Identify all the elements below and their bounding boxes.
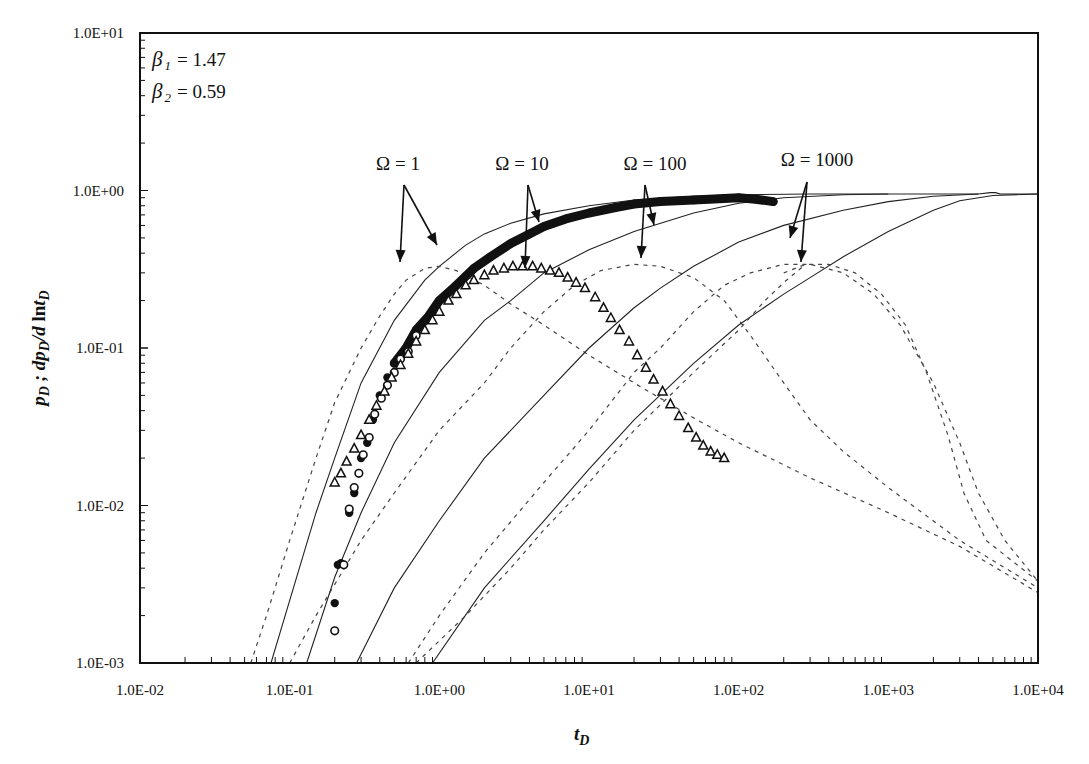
y-tick-label: 1.0E-03	[76, 655, 124, 671]
x-tick-label: 1.0E+03	[863, 682, 914, 698]
triangle-marker	[591, 292, 600, 301]
omega-label: Ω = 100	[624, 153, 687, 174]
filled-circle-marker	[656, 197, 664, 205]
x-tick-label: 1.0E+02	[713, 682, 764, 698]
arrowhead-icon	[396, 250, 406, 262]
triangle-marker	[606, 313, 615, 322]
triangle-marker	[499, 263, 508, 272]
filled-circle-marker	[689, 196, 697, 204]
series-line-5	[408, 264, 1038, 663]
triangle-marker	[480, 270, 489, 279]
filled-circle-marker	[435, 296, 443, 304]
triangle-marker	[684, 423, 693, 432]
chart: 1.0E-021.0E-011.0E+001.0E+011.0E+021.0E+…	[0, 0, 1089, 764]
series-line-3	[290, 264, 1038, 663]
filled-circle-marker	[769, 197, 777, 205]
omega-label: Ω = 1	[376, 153, 420, 174]
filled-circle-marker	[585, 209, 593, 217]
triangle-marker	[692, 433, 701, 442]
triangle-marker	[649, 375, 658, 384]
y-tick-label: 1.0E-01	[76, 340, 124, 356]
triangle-marker	[350, 444, 359, 453]
triangle-marker	[615, 325, 624, 334]
triangle-marker	[528, 261, 537, 270]
open-circle-marker	[350, 484, 358, 492]
axis-ticks	[140, 33, 1031, 663]
triangle-marker	[633, 350, 642, 359]
open-circle-marker	[345, 505, 353, 513]
filled-circle-marker	[611, 203, 619, 211]
series-line-0	[271, 193, 1038, 663]
arrowhead-icon	[637, 246, 647, 258]
triangle-marker	[675, 411, 684, 420]
filled-circle-marker	[507, 239, 515, 247]
open-circle-marker	[365, 434, 373, 442]
arrowhead-icon	[531, 209, 541, 222]
omega-label: Ω = 1000	[781, 149, 853, 170]
filled-circle-marker	[486, 252, 494, 260]
beta2-label: β2= 0.59	[151, 79, 226, 105]
filled-circle-marker	[540, 222, 548, 230]
triangle-marker	[537, 263, 546, 272]
triangle-marker	[489, 266, 498, 275]
triangle-marker	[554, 268, 563, 277]
series-line-1	[251, 266, 1038, 663]
filled-circle-marker	[720, 194, 728, 202]
x-tick-label: 1.0E-01	[266, 682, 314, 698]
filled-circle-marker	[734, 194, 742, 202]
x-tick-label: 1.0E-02	[116, 682, 164, 698]
triangle-marker	[546, 266, 555, 275]
omega-label: Ω = 10	[495, 153, 548, 174]
y-tick-label: 1.0E+00	[73, 183, 124, 199]
open-circle-marker	[331, 627, 339, 635]
series-line-7	[784, 264, 1038, 581]
beta1-label: β1= 1.47	[151, 47, 226, 73]
plot-curves	[251, 193, 1038, 663]
triangle-marker	[572, 278, 581, 287]
svg-text:pD ; dpD/d lntD: pD ; dpD/d lntD	[28, 290, 52, 407]
triangle-marker	[699, 441, 708, 450]
axis-tick-labels: 1.0E-021.0E-011.0E+001.0E+011.0E+021.0E+…	[73, 25, 1065, 698]
arrowhead-icon	[427, 232, 437, 245]
open-circle-marker	[359, 451, 367, 459]
filled-circle-marker	[331, 599, 339, 607]
triangle-marker	[658, 386, 667, 395]
triangle-marker	[580, 283, 589, 292]
filled-circle-marker	[470, 264, 478, 272]
open-circle-marker	[371, 410, 379, 418]
open-circle-marker	[355, 470, 363, 478]
arrowhead-icon	[646, 212, 656, 225]
filled-circle-marker	[630, 200, 638, 208]
triangle-marker	[624, 336, 633, 345]
y-tick-label: 1.0E+01	[73, 25, 124, 41]
series-line-8	[416, 264, 805, 663]
series-line-2	[307, 194, 889, 663]
triangle-marker	[508, 261, 517, 270]
y-axis-title: pD ; dpD/d lntD	[28, 290, 52, 407]
series-line-4	[357, 194, 979, 663]
arrow-line	[525, 185, 528, 268]
triangle-marker	[666, 399, 675, 408]
y-tick-label: 1.0E-02	[76, 498, 124, 514]
arrowhead-icon	[797, 250, 807, 262]
triangle-marker	[357, 430, 366, 439]
filled-circle-marker	[752, 195, 760, 203]
triangle-marker	[599, 303, 608, 312]
x-tick-label: 1.0E+00	[414, 682, 465, 698]
triangle-marker	[336, 468, 345, 477]
data-markers	[330, 194, 777, 635]
x-tick-label: 1.0E+04	[1012, 682, 1064, 698]
filled-circle-marker	[562, 215, 570, 223]
triangle-marker	[342, 457, 351, 466]
x-tick-label: 1.0E+01	[563, 682, 614, 698]
open-circle-marker	[340, 561, 348, 569]
triangle-marker	[330, 477, 339, 486]
arrowhead-icon	[789, 225, 799, 238]
x-axis-title: tD	[574, 723, 589, 748]
